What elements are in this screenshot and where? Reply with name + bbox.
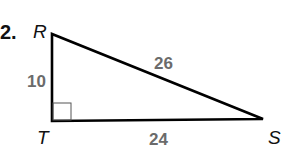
right-triangle-diagram: 2. R T S 10 26 24 <box>0 0 291 152</box>
problem-number: 2. <box>0 21 17 43</box>
side-length-ts: 24 <box>149 130 168 149</box>
triangle-shape <box>52 34 263 121</box>
side-length-rs: 26 <box>154 54 173 73</box>
side-length-rt: 10 <box>27 72 46 91</box>
vertex-label-s: S <box>268 127 281 148</box>
vertex-label-r: R <box>33 21 47 42</box>
right-angle-marker <box>53 103 71 120</box>
vertex-label-t: T <box>37 127 50 148</box>
